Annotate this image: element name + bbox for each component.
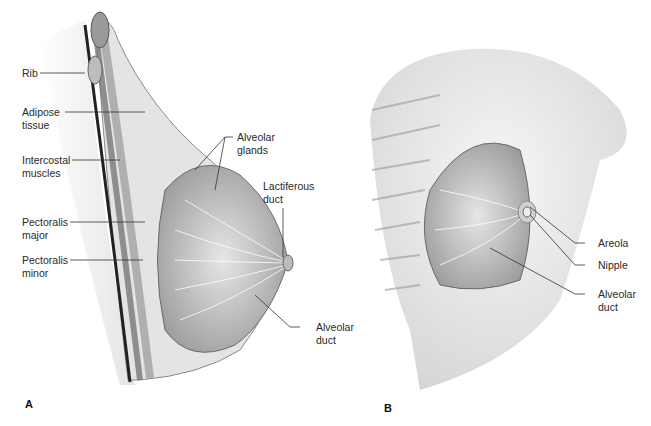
label-intercostal-muscles: Intercostal muscles [22,154,70,180]
label-alveolar-glands: Alveolar glands [237,131,275,157]
panel-a-illustration [40,12,293,385]
label-adipose-tissue: Adipose tissue [22,106,60,132]
panel-letter-b: B [384,402,392,414]
label-rib: Rib [22,67,38,80]
panel-letter-a: A [25,398,33,410]
label-alveolar-duct-b: Alveolar duct [598,288,636,314]
label-pectoralis-major: Pectoralis major [22,216,68,242]
label-pectoralis-minor: Pectoralis minor [22,254,68,280]
label-lactiferous-duct: Lactiferous duct [263,180,314,206]
panel-b-illustration [370,49,627,390]
anatomy-illustration [0,0,651,426]
label-areola: Areola [598,237,628,250]
label-alveolar-duct-a: Alveolar duct [316,321,354,347]
label-nipple: Nipple [598,259,628,272]
